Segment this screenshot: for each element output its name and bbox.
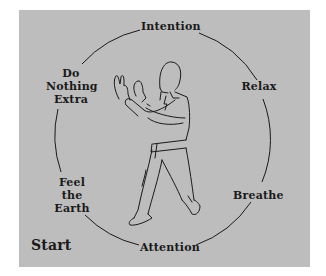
label-intention: Intention (141, 20, 199, 33)
tai-chi-figure-icon (114, 62, 200, 225)
label-line: Nothing (46, 80, 96, 93)
label-relax: Relax (239, 80, 279, 93)
label-attention: Attention (140, 241, 196, 254)
label-line: the (50, 189, 94, 202)
label-breathe: Breathe (233, 189, 283, 202)
start-label: Start (31, 239, 72, 252)
label-line: Earth (50, 202, 94, 215)
cycle-diagram (0, 0, 326, 276)
label-line: Extra (46, 93, 96, 106)
label-line: Do (46, 67, 96, 80)
label-do-nothing-extra: Do Nothing Extra (46, 67, 96, 106)
label-line: Feel (50, 176, 94, 189)
label-feel-the-earth: Feel the Earth (50, 176, 94, 215)
